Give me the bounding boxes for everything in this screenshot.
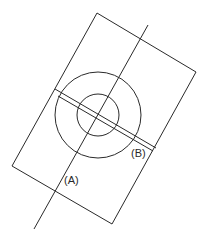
diagram-canvas: (A) (B) xyxy=(0,0,210,238)
diagram-svg: (A) (B) xyxy=(0,0,210,238)
band-line-lower xyxy=(58,96,153,151)
axis-line-a xyxy=(34,25,148,229)
label-a: (A) xyxy=(64,174,79,186)
label-b: (B) xyxy=(131,147,146,159)
rotated-rectangle xyxy=(12,13,196,224)
